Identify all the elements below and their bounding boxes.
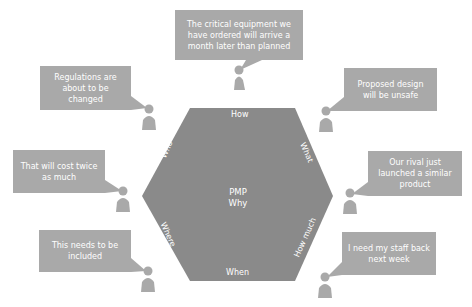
center-label-pmp: PMP <box>208 187 268 198</box>
center-label-why: Why <box>208 198 268 209</box>
bubble-text-left-1: Regulations are about to be changed <box>44 66 127 110</box>
bubble-text-left-2: That will cost twice as much <box>17 150 101 193</box>
bubble-text-right-3: I need my staff back next week <box>348 232 430 275</box>
bubble-text-right-1: Proposed design will be unsafe <box>350 68 431 111</box>
bubble-text-left-3: This needs to be included <box>45 230 125 272</box>
bubble-text-right-2: Our rival just launched a similar produc… <box>374 151 456 196</box>
hex-label-when: When <box>226 268 249 277</box>
bubble-text-top: The critical equipment we have ordered w… <box>177 10 301 60</box>
person-icon <box>234 66 245 91</box>
hexagon-center-label: PMP Why <box>208 187 268 209</box>
hex-label-how: How <box>231 110 248 119</box>
